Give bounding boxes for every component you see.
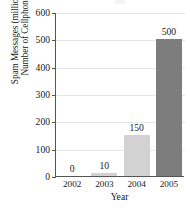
y-axis-title-line-1: Number of Cellphone (20, 0, 30, 76)
y-axis-tick-label: 100 (36, 145, 50, 155)
bar-value-label: 10 (100, 161, 110, 171)
y-axis-tick-label: 300 (36, 90, 50, 100)
bar-chart-figure: Number of Cellphone Spam Messages (milli… (0, 0, 190, 211)
x-axis-tick-label: 2005 (160, 179, 178, 189)
y-axis-tick (52, 95, 56, 96)
y-axis-tick (52, 150, 56, 151)
y-axis-tick-label: 200 (36, 117, 50, 127)
y-axis-tick-label: 400 (36, 63, 50, 73)
bar: 150 (124, 135, 150, 176)
scan-artifact (115, 0, 125, 4)
y-axis-tick (52, 68, 56, 69)
x-axis-title: Year (55, 191, 184, 202)
y-axis-title: Number of Cellphone Spam Messages (milli… (6, 0, 34, 116)
x-axis-tick-label: 2002 (63, 179, 81, 189)
y-axis-tick (52, 177, 56, 178)
y-axis-tick (52, 122, 56, 123)
bar: 10 (91, 173, 117, 176)
gridline (56, 13, 185, 14)
bar: 500 (156, 39, 182, 176)
x-axis-tick-label: 2003 (95, 179, 113, 189)
bar-value-label: 150 (129, 123, 143, 133)
y-axis-tick-label: 500 (36, 35, 50, 45)
x-axis-tick-label: 2004 (127, 179, 145, 189)
bar-value-label: 500 (162, 27, 176, 37)
y-axis-tick (52, 40, 56, 41)
plot-area: 0100200300400500600020021020031502004500… (55, 13, 184, 177)
y-axis-tick-label: 0 (45, 172, 50, 182)
bar-value-label: 0 (70, 164, 75, 174)
y-axis-tick-label: 600 (36, 8, 50, 18)
y-axis-title-line-2: Spam Messages (millions) (10, 0, 20, 84)
y-axis-tick (52, 13, 56, 14)
